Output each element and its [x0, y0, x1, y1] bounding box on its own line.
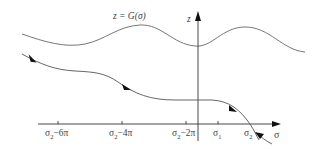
sigma-axis-label: σ: [274, 129, 280, 140]
curve-label: z = G(σ): [112, 11, 146, 22]
tick-label-sigma1: σ1: [213, 128, 221, 140]
tick-label-sigma2-minus-6pi: σ2−6π: [45, 128, 68, 140]
tick-label-sigma2: σ2: [244, 128, 252, 140]
tick-label-sigma2-minus-2pi: σ2−2π: [172, 128, 195, 140]
tick-label-sigma2-minus-4pi: σ2−4π: [109, 128, 132, 140]
curve-z-equals-G-sigma: [22, 25, 305, 52]
phase-diagram: z = G(σ) z σ σ2−6π σ2−4π σ2−2π σ1 σ2: [0, 0, 321, 149]
trajectory-arrow-icon-2: [122, 84, 131, 90]
z-axis-arrow-icon: [195, 11, 201, 21]
z-axis-label: z: [186, 14, 191, 24]
sigma-axis-arrow-icon: [272, 121, 281, 127]
